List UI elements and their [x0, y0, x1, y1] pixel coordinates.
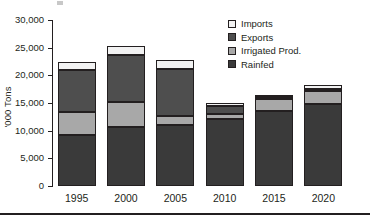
- bar-segment-imports: [255, 95, 293, 98]
- legend-item: Irrigated Prod.: [228, 44, 301, 57]
- bar-2005: [156, 20, 194, 186]
- y-axis-tick-mark: [48, 186, 52, 187]
- bar-segment-irrigated-prod: [255, 99, 293, 112]
- legend-label: Exports: [241, 32, 273, 43]
- chart-legend: ImportsExportsIrrigated Prod.Rainfed: [228, 17, 301, 71]
- bar-segment-imports: [107, 46, 145, 55]
- bar-segment-irrigated-prod: [107, 102, 145, 127]
- bar-segment-rainfed: [156, 125, 194, 186]
- legend-swatch-icon: [228, 60, 236, 68]
- chart-figure: '000 Tons 05,00010,00015,00020,00025,000…: [0, 0, 370, 221]
- legend-label: Imports: [241, 18, 273, 29]
- bar-segment-rainfed: [255, 111, 293, 186]
- y-axis-tick-label: 20,000: [15, 69, 44, 80]
- legend-item: Exports: [228, 31, 301, 44]
- bar-segment-irrigated-prod: [156, 116, 194, 125]
- bar-1995: [58, 20, 96, 186]
- legend-label: Irrigated Prod.: [241, 45, 301, 56]
- bar-segment-rainfed: [58, 135, 96, 186]
- bar-segment-exports: [58, 70, 96, 113]
- bar-segment-rainfed: [206, 119, 244, 186]
- x-axis-tick-label: 2020: [293, 192, 353, 204]
- bottom-divider: [0, 213, 370, 215]
- legend-label: Rainfed: [241, 59, 274, 70]
- bar-segment-imports: [58, 62, 96, 70]
- y-axis-tick-label: 0: [39, 180, 44, 191]
- legend-swatch-icon: [228, 47, 236, 55]
- bar-2020: [304, 20, 342, 186]
- y-axis-tick-label: 10,000: [15, 125, 44, 136]
- y-axis-tick-label: 15,000: [15, 97, 44, 108]
- bar-segment-imports: [206, 103, 244, 106]
- cropped-title-artifact: [57, 1, 63, 5]
- bar-segment-exports: [107, 55, 145, 101]
- legend-swatch-icon: [228, 20, 236, 28]
- bar-segment-exports: [206, 106, 244, 114]
- bar-segment-irrigated-prod: [206, 114, 244, 119]
- bar-segment-rainfed: [107, 127, 145, 186]
- y-axis-tick-label: 5,000: [20, 152, 44, 163]
- y-axis-tick-label: 25,000: [15, 42, 44, 53]
- bar-segment-imports: [156, 60, 194, 69]
- bar-2000: [107, 20, 145, 186]
- legend-item: Imports: [228, 17, 301, 30]
- bar-segment-rainfed: [304, 104, 342, 186]
- bar-segment-imports: [304, 85, 342, 89]
- legend-swatch-icon: [228, 33, 236, 41]
- y-axis-tick-label: 30,000: [15, 14, 44, 25]
- plot-area: [52, 20, 348, 186]
- bar-segment-irrigated-prod: [58, 112, 96, 134]
- y-axis-label: '000 Tons: [2, 72, 13, 142]
- legend-item: Rainfed: [228, 58, 301, 71]
- bar-segment-exports: [156, 69, 194, 116]
- bar-segment-irrigated-prod: [304, 91, 342, 104]
